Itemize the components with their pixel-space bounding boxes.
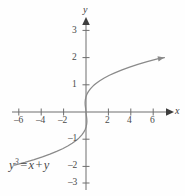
y-axis-arrow-icon: [82, 17, 90, 25]
y-tick-label-minus3: –3: [68, 177, 77, 187]
x-tick-label-minus6: –6: [14, 115, 23, 125]
y-axis-label: y: [83, 4, 87, 15]
y-tick-label-minus2: –2: [68, 160, 77, 170]
equation-equals: =: [19, 158, 28, 172]
equation-annotation: y3=x+y: [9, 157, 50, 173]
y-tick-label-3: 3: [72, 25, 77, 35]
graph-figure: –6 –4 –2 2 4 6 3 2 1 –1 –2 –3 x y y3=x+y: [0, 0, 185, 196]
y-tick-label-2: 2: [72, 52, 77, 62]
y-tick-label-1: 1: [72, 79, 77, 89]
x-tick-label-minus2: –2: [58, 115, 67, 125]
x-tick-label-minus4: –4: [36, 115, 45, 125]
x-axis-arrow-icon: [166, 108, 174, 116]
implicit-curve-y3-eq-x-plus-y: [15, 58, 165, 165]
x-axis-label: x: [175, 105, 179, 116]
equation-plus: +: [34, 158, 43, 172]
x-tick-label-2: 2: [105, 115, 110, 125]
curve-end-arrow-icon: [158, 56, 165, 61]
y-tick-label-minus1: –1: [68, 133, 77, 143]
equation-rhs-second: y: [44, 158, 50, 172]
x-tick-label-4: 4: [127, 115, 132, 125]
x-tick-label-6: 6: [150, 115, 155, 125]
